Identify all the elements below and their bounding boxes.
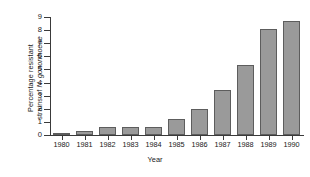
x-axis-line (44, 135, 304, 136)
bar-1988 (237, 65, 254, 135)
y-tick-label-6: 6 (30, 53, 42, 61)
y-tick-label-2: 2 (30, 105, 42, 113)
y-tick-label-7: 7 (30, 39, 42, 47)
bar-1981 (76, 131, 93, 135)
y-tick-label-8: 8 (30, 26, 42, 34)
bar-chart-figure: Percentage resistant strains of N. gonor… (0, 0, 310, 177)
bar-1989 (260, 29, 277, 135)
bar-1982 (99, 127, 116, 135)
bar-1984 (145, 127, 162, 135)
x-axis-title: Year (0, 155, 310, 164)
y-tick-label-1: 1 (30, 118, 42, 126)
y-tick-0 (44, 135, 50, 136)
bar-1990 (283, 21, 300, 135)
bar-1986 (191, 109, 208, 135)
x-tick-label-1990: 1990 (277, 141, 307, 148)
bar-1980 (53, 133, 70, 135)
bar-1987 (214, 90, 231, 135)
y-tick-label-0: 0 (30, 131, 42, 139)
bars-layer (50, 17, 303, 135)
bar-1985 (168, 119, 185, 135)
y-tick-label-5: 5 (30, 66, 42, 74)
y-tick-label-9: 9 (30, 13, 42, 21)
y-tick-label-4: 4 (30, 79, 42, 87)
y-tick-label-3: 3 (30, 92, 42, 100)
bar-1983 (122, 127, 139, 135)
